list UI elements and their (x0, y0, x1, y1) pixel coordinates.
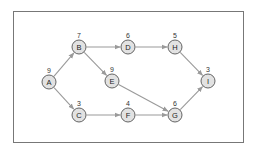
edge-g-i (180, 87, 202, 110)
node-weight: 7 (77, 32, 81, 39)
edge-a-c (54, 88, 74, 110)
node-label: C (76, 111, 82, 120)
node-c: C3 (72, 100, 86, 123)
node-label: E (109, 77, 114, 86)
node-f: F4 (121, 100, 135, 123)
node-weight: 9 (110, 66, 114, 73)
node-label: H (172, 43, 177, 52)
edge-h-i (180, 52, 202, 75)
node-label: D (125, 43, 131, 52)
node-d: D6 (121, 32, 135, 55)
network-diagram: A9B7C3D6E9F4G6H5I3 (0, 0, 253, 148)
node-label: G (172, 111, 178, 120)
node-label: B (76, 43, 81, 52)
node-i: I3 (201, 66, 215, 89)
nodes-layer: A9B7C3D6E9F4G6H5I3 (42, 32, 215, 123)
node-weight: 6 (126, 32, 130, 39)
edge-e-g (119, 85, 169, 112)
node-b: B7 (72, 32, 86, 55)
edge-b-e (84, 52, 106, 75)
node-label: A (46, 78, 51, 87)
node-label: F (126, 111, 131, 120)
node-g: G6 (168, 100, 182, 123)
node-e: E9 (105, 66, 119, 89)
node-a: A9 (42, 67, 56, 90)
node-weight: 5 (173, 32, 177, 39)
node-weight: 3 (77, 100, 81, 107)
edge-a-b (54, 53, 74, 76)
node-weight: 9 (47, 67, 51, 74)
node-weight: 6 (173, 100, 177, 107)
node-h: H5 (168, 32, 182, 55)
node-label: I (207, 77, 209, 86)
node-weight: 4 (126, 100, 130, 107)
node-weight: 3 (206, 66, 210, 73)
